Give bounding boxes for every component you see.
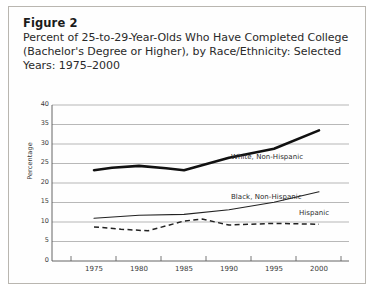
series-line-hispanic [94,219,319,231]
y-tick-label-35: 35 [27,120,49,127]
y-tick-label-25: 25 [27,159,49,166]
x-tick-label-1975: 1975 [77,265,111,273]
series-label-white-non-hispanic: White, Non-Hispanic [231,153,303,161]
plot-canvas [9,7,367,285]
series-label-hispanic: Hispanic [299,209,329,217]
y-tick-label-15: 15 [27,198,49,205]
series-line-white-non-hispanic [94,130,319,170]
y-tick-label-30: 30 [27,140,49,147]
gridlines [52,105,349,242]
x-axis-ticks [71,256,341,261]
x-tick-label-1990: 1990 [212,265,246,273]
x-tick-label-1995: 1995 [257,265,291,273]
y-tick-label-40: 40 [27,101,49,108]
y-tick-label-20: 20 [27,179,49,186]
y-tick-label-5: 5 [27,237,49,244]
x-tick-label-2000: 2000 [302,265,336,273]
x-tick-label-1980: 1980 [122,265,156,273]
x-tick-label-1985: 1985 [167,265,201,273]
series-label-black-non-hispanic: Black, Non-Hispanic [231,193,302,201]
figure-frame: Figure 2 Percent of 25-to-29-Year-Olds W… [8,6,366,284]
y-tick-label-10: 10 [27,218,49,225]
line-chart: Percentage 40 35 30 25 20 15 10 5 0 1975… [9,7,367,285]
y-tick-label-0: 0 [27,257,49,264]
